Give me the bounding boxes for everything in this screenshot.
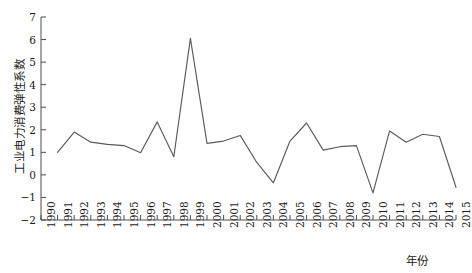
data-line-series-0	[58, 38, 456, 193]
axes	[41, 17, 456, 220]
x-tick-label: 2015	[460, 201, 472, 228]
